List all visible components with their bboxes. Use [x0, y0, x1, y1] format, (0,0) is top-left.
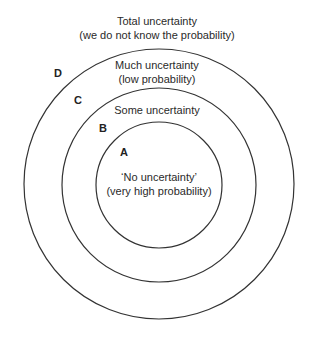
label-c: C: [74, 94, 82, 106]
much-uncertainty-sub: (low probability): [0, 72, 314, 86]
total-uncertainty-title: Total uncertainty: [0, 14, 314, 28]
total-uncertainty-label: Total uncertainty (we do not know the pr…: [0, 14, 314, 42]
label-a: A: [120, 146, 128, 158]
label-b: B: [99, 122, 107, 134]
much-uncertainty-label: Much uncertainty (low probability): [0, 58, 314, 86]
some-uncertainty-label: Some uncertainty: [0, 103, 314, 117]
much-uncertainty-title: Much uncertainty: [0, 58, 314, 72]
nested-circles: [0, 0, 314, 337]
no-uncertainty-label: ‘No uncertainty’ (very high probability): [0, 170, 314, 198]
no-uncertainty-sub: (very high probability): [0, 184, 314, 198]
total-uncertainty-sub: (we do not know the probability): [0, 28, 314, 42]
label-d: D: [54, 67, 62, 79]
no-uncertainty-title: ‘No uncertainty’: [0, 170, 314, 184]
some-uncertainty-title: Some uncertainty: [0, 103, 314, 117]
